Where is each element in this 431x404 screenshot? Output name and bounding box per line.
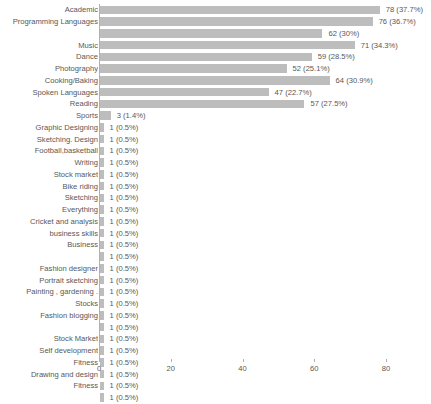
bar (100, 276, 104, 285)
chart-row: 62 (30%) (0, 28, 431, 40)
chart-row: Self development1 (0.5%) (0, 345, 431, 357)
category-label: Everything (0, 205, 98, 214)
value-label: 1 (0.5%) (110, 323, 139, 332)
bar (100, 299, 104, 308)
value-label: 62 (30%) (328, 29, 359, 38)
chart-row: Painting , gardening .1 (0.5%) (0, 286, 431, 298)
bar (100, 100, 304, 109)
value-label: 1 (0.5%) (110, 381, 139, 390)
value-label: 52 (25.1%) (293, 64, 330, 73)
x-tick (243, 359, 244, 362)
chart-row: 1 (0.5%) (0, 321, 431, 333)
chart-row: Programming Languages76 (36.7%) (0, 16, 431, 28)
bar (100, 29, 322, 38)
category-label: Graphic Designing (0, 123, 98, 132)
chart-row: Fashion blogging1 (0.5%) (0, 310, 431, 322)
chart-row: Graphic Designing1 (0.5%) (0, 122, 431, 134)
bar (100, 135, 104, 144)
value-label: 1 (0.5%) (110, 123, 139, 132)
value-label: 1 (0.5%) (110, 252, 139, 261)
value-label: 59 (28.5%) (318, 52, 355, 61)
category-label: Drawing and design (0, 370, 98, 379)
bar (100, 393, 104, 402)
category-label: Photography (0, 64, 98, 73)
chart-row: Spoken Languages47 (22.7%) (0, 86, 431, 98)
bar-group: 52 (25.1%) (100, 64, 330, 73)
value-label: 3 (1.4%) (117, 111, 146, 120)
chart-row: 1 (0.5%) (0, 251, 431, 263)
bar (100, 76, 330, 85)
category-label: Fitness (0, 358, 98, 367)
bar (100, 170, 104, 179)
x-tick (386, 359, 387, 362)
bar-group: 47 (22.7%) (100, 88, 312, 97)
bar-group: 1 (0.5%) (100, 311, 138, 320)
bar-group: 59 (28.5%) (100, 53, 355, 62)
value-label: 1 (0.5%) (110, 217, 139, 226)
bar (100, 264, 104, 273)
value-label: 1 (0.5%) (110, 182, 139, 191)
chart-row: Dance59 (28.5%) (0, 51, 431, 63)
value-label: 1 (0.5%) (110, 346, 139, 355)
bar-group: 1 (0.5%) (100, 335, 138, 344)
category-label: Self development (0, 346, 98, 355)
bar-group: 76 (36.7%) (100, 17, 416, 26)
bar-group: 1 (0.5%) (100, 229, 138, 238)
bar (100, 335, 104, 344)
category-label: Fashion designer (0, 264, 98, 273)
bar-group: 1 (0.5%) (100, 241, 138, 250)
bar (100, 346, 104, 355)
bar-group: 62 (30%) (100, 29, 359, 38)
value-label: 1 (0.5%) (110, 334, 139, 343)
value-label: 1 (0.5%) (110, 240, 139, 249)
chart-row: Academic78 (37.7%) (0, 4, 431, 16)
category-label: Bike riding (0, 182, 98, 191)
chart-row: Photography52 (25.1%) (0, 63, 431, 75)
x-tick-label: 60 (310, 364, 318, 373)
bar (100, 182, 104, 191)
bar (100, 217, 104, 226)
value-label: 71 (34.3%) (361, 41, 398, 50)
chart-row: Cricket and analysis1 (0.5%) (0, 216, 431, 228)
chart-row: business skills1 (0.5%) (0, 227, 431, 239)
chart-row: Everything1 (0.5%) (0, 204, 431, 216)
bar-group: 1 (0.5%) (100, 194, 138, 203)
value-label: 57 (27.5%) (310, 99, 347, 108)
bar (100, 6, 380, 15)
chart-row: Writing1 (0.5%) (0, 157, 431, 169)
value-label: 1 (0.5%) (110, 264, 139, 273)
category-label: Sketching. Design (0, 135, 98, 144)
category-label: Music (0, 41, 98, 50)
category-label: Cricket and analysis (0, 217, 98, 226)
bar-group: 1 (0.5%) (100, 147, 138, 156)
bar-group: 1 (0.5%) (100, 158, 138, 167)
chart-row: Football,basketball1 (0.5%) (0, 145, 431, 157)
value-label: 1 (0.5%) (110, 193, 139, 202)
category-label: Stocks (0, 299, 98, 308)
category-label: Business (0, 240, 98, 249)
category-label: Sports (0, 111, 98, 120)
category-label: Programming Languages (0, 17, 98, 26)
chart-row: Bike riding1 (0.5%) (0, 180, 431, 192)
bar-group: 1 (0.5%) (100, 170, 138, 179)
bar (100, 123, 104, 132)
chart-rows: Academic78 (37.7%)Programming Languages7… (0, 4, 431, 404)
bar-group: 1 (0.5%) (100, 264, 138, 273)
category-label: Academic (0, 5, 98, 14)
x-axis: 020406080 (99, 359, 431, 360)
value-label: 1 (0.5%) (110, 170, 139, 179)
bar-group: 1 (0.5%) (100, 182, 138, 191)
category-label: Fashion blogging (0, 311, 98, 320)
bar-group: 71 (34.3%) (100, 41, 398, 50)
category-label: Painting , gardening . (0, 287, 98, 296)
chart-row: Drawing and design1 (0.5%) (0, 368, 431, 380)
bar (100, 17, 373, 26)
category-label: Writing (0, 158, 98, 167)
value-label: 1 (0.5%) (110, 146, 139, 155)
category-label: Fitness (0, 381, 98, 390)
bar-group: 3 (1.4%) (100, 111, 145, 120)
value-label: 1 (0.5%) (110, 311, 139, 320)
value-label: 78 (37.7%) (386, 5, 423, 14)
x-tick (171, 359, 172, 362)
